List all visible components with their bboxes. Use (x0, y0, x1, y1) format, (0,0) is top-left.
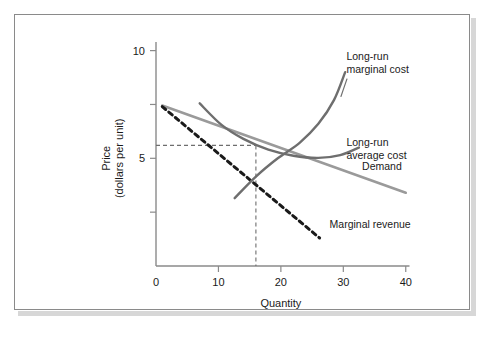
figure-frame: 010203040510QuantityPrice(dollars per un… (14, 14, 470, 310)
y-tick-label: 10 (133, 45, 145, 57)
x-tick-label: 30 (337, 276, 349, 288)
series-curve-3 (200, 103, 359, 158)
curve-label-3: average cost (346, 149, 406, 161)
curve-label-1: Marginal revenue (330, 218, 411, 230)
figure-shadow-right (471, 18, 476, 314)
curve-label-3: Long-run (346, 136, 388, 148)
curve-label-0: Demand (362, 160, 402, 172)
x-tick-label: 10 (212, 276, 224, 288)
x-axis-title: Quantity (260, 297, 301, 309)
figure-shadow-bottom (18, 311, 476, 316)
economics-chart: 010203040510QuantityPrice(dollars per un… (15, 15, 471, 311)
series-curve-1 (162, 107, 319, 238)
curve-label-2: Long-run (346, 50, 388, 62)
x-tick-label: 0 (153, 276, 159, 288)
x-tick-label: 20 (275, 276, 287, 288)
x-tick-label: 40 (400, 276, 412, 288)
y-tick-label: 5 (139, 152, 145, 164)
curve-label-2: marginal cost (346, 63, 409, 75)
y-axis-title-line1: Price (100, 146, 112, 171)
y-axis-title-line2: (dollars per unit) (113, 119, 125, 198)
